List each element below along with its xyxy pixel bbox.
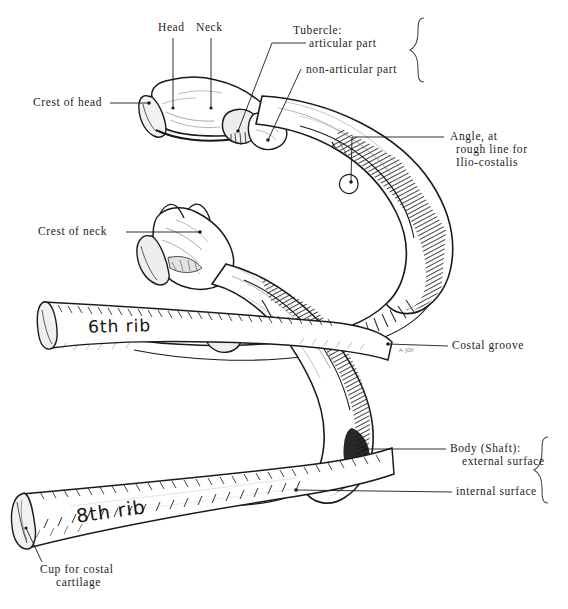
label-head: Head xyxy=(158,21,185,35)
brace-tubercle xyxy=(410,18,424,82)
label-crest-of-neck: Crest of neck xyxy=(38,225,107,239)
label-body-external-surface: external surface xyxy=(462,455,545,469)
rib-anatomy-figure: A. JOY xyxy=(0,0,568,609)
label-costal-groove: Costal groove xyxy=(452,339,524,353)
label-crest-of-head: Crest of head xyxy=(33,96,102,110)
artist-initials: A. JOY xyxy=(399,347,415,353)
label-tubercle-title: Tubercle: xyxy=(293,24,342,38)
label-neck: Neck xyxy=(196,21,223,35)
label-cup-line-2: cartilage xyxy=(56,576,101,590)
angle-marker xyxy=(340,174,359,193)
label-tubercle-articular-part: articular part xyxy=(309,37,376,51)
label-angle-line-2: rough line for xyxy=(456,143,528,157)
label-body-shaft-title: Body (Shaft): xyxy=(450,442,521,456)
label-tubercle-non-articular-part: non-articular part xyxy=(306,63,397,77)
leader-costal-groove xyxy=(388,344,448,346)
label-angle-line-1: Angle, at xyxy=(450,130,498,144)
label-cup-line-1: Cup for costal xyxy=(40,563,114,577)
label-body-internal-surface: internal surface xyxy=(456,485,537,499)
label-angle-line-3: Ilio-costalis xyxy=(456,156,518,170)
label-sixth-rib: 6th rib xyxy=(88,315,152,337)
